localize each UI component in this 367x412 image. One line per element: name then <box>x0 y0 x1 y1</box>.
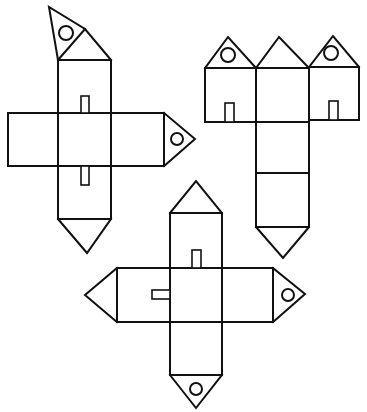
door-icon <box>81 166 89 185</box>
door-icon <box>225 103 234 122</box>
wall-column <box>58 60 111 219</box>
door-icon <box>152 290 170 299</box>
round-window-icon <box>190 383 202 395</box>
house-net-1 <box>8 7 195 253</box>
door-icon <box>192 250 201 268</box>
house-net-3 <box>85 181 305 408</box>
round-window-icon <box>59 26 73 40</box>
wall-column <box>170 213 222 375</box>
house-wall-2 <box>256 68 309 122</box>
house-nets-drawing <box>0 0 367 412</box>
wall-band <box>117 268 273 322</box>
round-window-icon <box>171 133 183 145</box>
left-gable-flap <box>85 268 117 322</box>
side-gable-flap <box>164 113 195 166</box>
round-window-icon <box>324 46 338 60</box>
wall-band <box>8 113 164 166</box>
diagram-canvas: Paper house nets <box>0 0 367 412</box>
door-icon <box>81 96 89 113</box>
bottom-gable-flap <box>170 375 222 408</box>
house-roof-1 <box>205 37 256 68</box>
roof-gable <box>170 181 222 213</box>
wall-column <box>256 122 309 227</box>
roof-fold-line <box>58 29 85 60</box>
door-icon <box>329 101 338 120</box>
house-roof-3 <box>309 36 359 67</box>
bottom-gable-flap <box>256 227 309 258</box>
round-window-icon <box>221 48 235 62</box>
house-roof-2 <box>256 37 309 68</box>
house-net-2 <box>205 36 359 258</box>
right-gable-flap <box>273 268 305 322</box>
bottom-gable-flap <box>58 219 111 253</box>
round-window-icon <box>282 289 294 301</box>
